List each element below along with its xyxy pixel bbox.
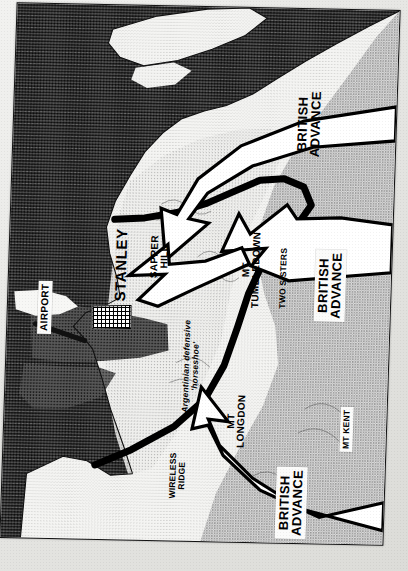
advance-label-centre: BRITISH ADVANCE [314, 249, 347, 322]
place-label-two-sisters: TWO SISTERS [278, 248, 289, 309]
place-label-airport: AIRPORT [37, 281, 53, 334]
advance-label-north: BRITISH ADVANCE [295, 91, 324, 158]
place-label-mt-kent: MT KENT [339, 407, 353, 452]
place-label-mt-longdon: MT LONGDON [225, 394, 247, 448]
place-label-sapper-hill: SAPPER HILL [149, 235, 171, 278]
place-label-wireless-ridge: WIRELESS RIDGE [168, 452, 187, 498]
arrow-advance-centre-shaft [128, 244, 250, 308]
place-label-mt-tumbledown: MT TUMBLEDOWN [240, 232, 263, 309]
map-canvas: AIRPORT STANLEY SAPPER HILL MT TUMBLEDOW… [0, 3, 399, 544]
advance-label-south: BRITISH ADVANCE [274, 466, 307, 539]
annotation-argentine-horseshoe: Argentinian defensive 'horseshoe' [181, 320, 201, 413]
stanley-town-symbol [92, 305, 132, 330]
place-label-stanley: STANLEY [112, 228, 130, 301]
map-plate: AIRPORT STANLEY SAPPER HILL MT TUMBLEDOW… [0, 2, 401, 545]
photo-page: AIRPORT STANLEY SAPPER HILL MT TUMBLEDOW… [0, 0, 408, 571]
